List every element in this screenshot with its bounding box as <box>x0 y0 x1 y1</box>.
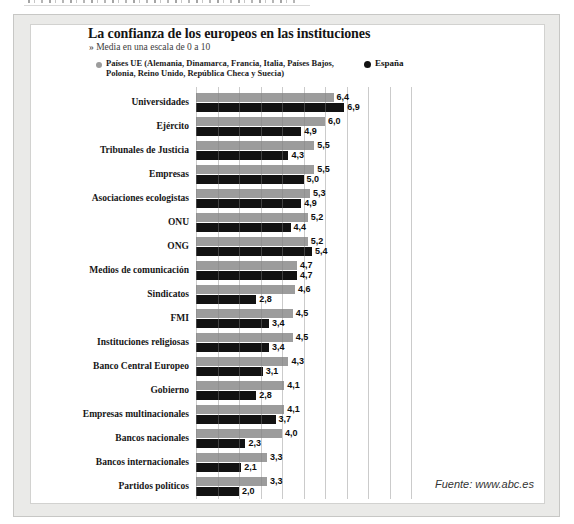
gridline <box>239 87 240 499</box>
category-label: Asociaciones ecologistas <box>31 188 189 208</box>
bar-ue <box>196 213 308 222</box>
value-label-ue: 3,3 <box>270 476 283 486</box>
page: La confianza de los europeos en las inst… <box>0 0 574 524</box>
gridline <box>282 87 283 499</box>
value-label-espana: 4,9 <box>304 126 317 136</box>
category-label: Medios de comunicación <box>31 260 189 280</box>
value-label-ue: 5,5 <box>317 164 330 174</box>
category-label: Bancos nacionales <box>31 428 189 448</box>
bar-ue <box>196 357 288 366</box>
bar-espana <box>196 199 301 208</box>
value-label-ue: 6,4 <box>337 92 350 102</box>
bar-espana <box>196 223 291 232</box>
bar-ue <box>196 141 314 150</box>
gridline <box>368 87 369 499</box>
value-label-espana: 4,7 <box>300 270 313 280</box>
bar-espana <box>196 367 263 376</box>
category-label: Ejército <box>31 116 189 136</box>
value-label-ue: 4,5 <box>296 308 309 318</box>
value-label-espana: 5,0 <box>307 174 320 184</box>
category-label: Universidades <box>31 92 189 112</box>
bar-espana <box>196 151 288 160</box>
bar-espana <box>196 175 304 184</box>
category-label: Banco Central Europeo <box>31 356 189 376</box>
category-label: Bancos internacionales <box>31 452 189 472</box>
value-label-espana: 2,8 <box>259 390 272 400</box>
value-label-ue: 4,6 <box>298 284 311 294</box>
value-label-ue: 3,3 <box>270 452 283 462</box>
value-label-ue: 4,5 <box>296 332 309 342</box>
bar-ue <box>196 333 293 342</box>
bar-espana <box>196 295 256 304</box>
value-label-espana: 4,4 <box>294 222 307 232</box>
category-label: Empresas multinacionales <box>31 404 189 424</box>
bar-ue <box>196 477 267 486</box>
bar-ue <box>196 309 293 318</box>
bar-ue <box>196 189 310 198</box>
bar-espana <box>196 127 301 136</box>
chart-panel: La confianza de los europeos en las inst… <box>30 24 545 504</box>
value-label-ue: 5,2 <box>311 236 324 246</box>
category-label: Sindicatos <box>31 284 189 304</box>
source-credit: Fuente: www.abc.es <box>435 478 534 490</box>
category-label: Instituciones religiosas <box>31 332 189 352</box>
category-label: Tribunales de Justicia <box>31 140 189 160</box>
value-label-espana: 6,9 <box>347 102 360 112</box>
value-label-espana: 3,4 <box>272 342 285 352</box>
bar-espana <box>196 415 276 424</box>
value-label-ue: 4,3 <box>291 356 304 366</box>
value-label-ue: 5,3 <box>313 188 326 198</box>
infographic-card: La confianza de los europeos en las inst… <box>13 14 560 517</box>
gridline <box>411 87 412 499</box>
bar-ue <box>196 237 308 246</box>
gridline <box>347 87 348 499</box>
value-label-ue: 6,0 <box>328 116 341 126</box>
bar-ue <box>196 165 314 174</box>
bar-espana <box>196 247 312 256</box>
gridline <box>218 87 219 499</box>
bar-espana <box>196 391 256 400</box>
value-label-espana: 5,4 <box>315 246 328 256</box>
value-label-espana: 2,8 <box>259 294 272 304</box>
bar-chart: Universidades6,46,9Ejército6,04,9Tribuna… <box>31 25 546 505</box>
bar-espana <box>196 463 241 472</box>
bar-espana <box>196 343 269 352</box>
bar-ue <box>196 453 267 462</box>
value-label-espana: 3,7 <box>279 414 292 424</box>
category-label: FMI <box>31 308 189 328</box>
category-label: Gobierno <box>31 380 189 400</box>
value-label-ue: 4,0 <box>285 428 298 438</box>
category-label: ONG <box>31 236 189 256</box>
clipped-rule-fragment <box>24 5 310 6</box>
bar-espana <box>196 319 269 328</box>
category-label: Partidos políticos <box>31 476 189 496</box>
gridline <box>390 87 391 499</box>
value-label-ue: 4,7 <box>300 260 313 270</box>
value-label-espana: 4,3 <box>291 150 304 160</box>
value-label-ue: 5,2 <box>311 212 324 222</box>
bar-ue <box>196 285 295 294</box>
value-label-espana: 4,9 <box>304 198 317 208</box>
value-label-espana: 2,0 <box>242 486 255 496</box>
value-label-espana: 3,1 <box>266 366 279 376</box>
value-label-espana: 3,4 <box>272 318 285 328</box>
value-label-ue: 4,1 <box>287 380 300 390</box>
value-label-espana: 2,1 <box>244 462 257 472</box>
bar-ue <box>196 405 284 414</box>
value-label-espana: 2,3 <box>248 438 261 448</box>
clipped-text-fragment <box>28 0 300 3</box>
gridline <box>196 87 197 499</box>
category-label: ONU <box>31 212 189 232</box>
value-label-ue: 4,1 <box>287 404 300 414</box>
category-label: Empresas <box>31 164 189 184</box>
bar-ue <box>196 381 284 390</box>
value-label-ue: 5,5 <box>317 140 330 150</box>
